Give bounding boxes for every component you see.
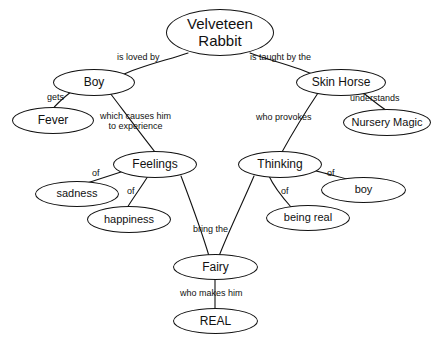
node-being_real[interactable]: being real [266, 205, 350, 231]
node-label-happiness: happiness [102, 214, 156, 226]
node-sadness[interactable]: sadness [35, 181, 119, 207]
edge-label-e_thinking_boy: of [327, 168, 335, 178]
edge-label-e_feelings_sadness: of [92, 168, 100, 178]
edge-label-e_boy_feelings: which causes him to experience [100, 111, 171, 131]
node-label-feelings: Feelings [130, 158, 179, 171]
edge-label-e_rabbit_boy: is loved by [117, 52, 160, 62]
node-label-thinking: Thinking [255, 158, 304, 171]
edge-label-e_feelings_happiness: of [127, 186, 135, 196]
concept-map-canvas: Velveteen RabbitBoySkin HorseFeverNurser… [0, 0, 437, 339]
node-label-velveteen_rabbit: Velveteen Rabbit [185, 16, 255, 48]
node-label-fever: Fever [36, 114, 71, 127]
node-label-being_real: being real [282, 212, 334, 224]
node-happiness[interactable]: happiness [87, 206, 171, 233]
node-boy_top[interactable]: Boy [53, 69, 135, 96]
node-skin_horse[interactable]: Skin Horse [296, 69, 386, 96]
edge-label-e_thinking_beingreal: of [281, 186, 289, 196]
node-nursery_magic[interactable]: Nursery Magic [343, 109, 431, 136]
node-label-boy_top: Boy [82, 76, 107, 89]
edge-label-e_feelings_fairy: bring the [193, 224, 228, 234]
node-velveteen_rabbit[interactable]: Velveteen Rabbit [166, 9, 274, 56]
connector-feelings-to-fairy [181, 176, 209, 256]
node-fever[interactable]: Fever [12, 107, 94, 134]
node-label-skin_horse: Skin Horse [310, 76, 373, 89]
node-label-fairy: Fairy [200, 261, 231, 274]
connector-thinking-to-fairy [219, 176, 254, 256]
edge-label-e_rabbit_skinhorse: is taught by the [250, 52, 311, 62]
edge-label-e_skinhorse_thinking: who provokes [256, 112, 312, 122]
node-thinking[interactable]: Thinking [238, 151, 322, 178]
node-fairy[interactable]: Fairy [173, 254, 258, 280]
node-label-boy_lower: boy [353, 184, 375, 196]
edge-label-e_fairy_real: who makes him [180, 288, 243, 298]
node-feelings[interactable]: Feelings [113, 151, 197, 178]
node-label-nursery_magic: Nursery Magic [350, 117, 425, 129]
edge-label-e_boy_fever: gets [47, 92, 64, 102]
edge-label-e_skinhorse_nursery: understands [350, 93, 400, 103]
node-boy_lower[interactable]: boy [321, 177, 406, 203]
node-label-real: REAL [198, 315, 233, 328]
connector-skin_horse-to-thinking [282, 93, 318, 152]
node-real[interactable]: REAL [173, 308, 258, 334]
node-label-sadness: sadness [55, 188, 100, 200]
